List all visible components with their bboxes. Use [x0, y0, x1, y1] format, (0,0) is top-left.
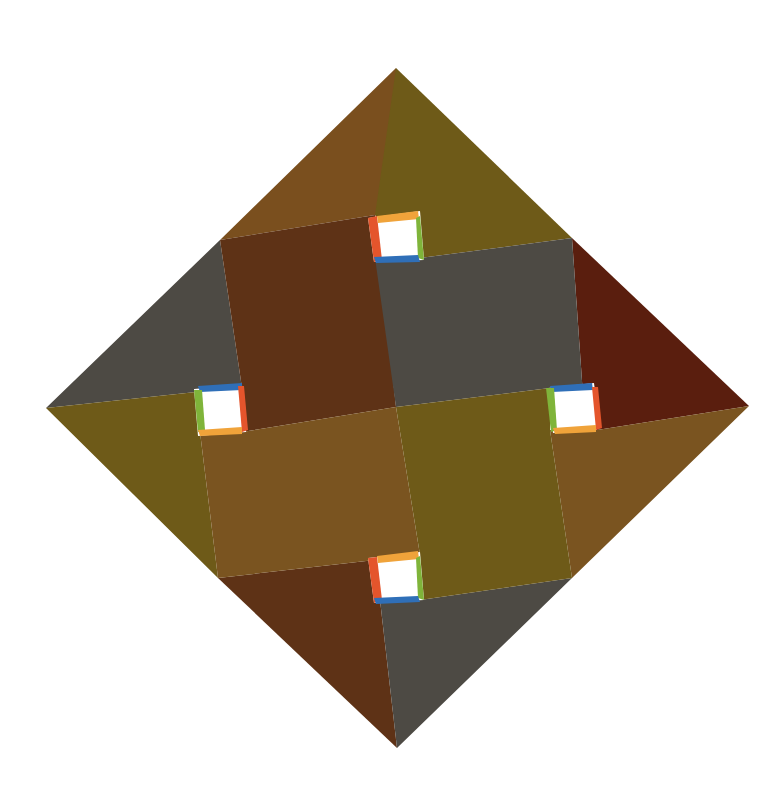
bottom-left-brown-triangle: [218, 560, 397, 748]
left-gap-square: [194, 383, 248, 436]
top-left-brown-band: [220, 215, 396, 432]
geometric-diamond-artwork: [0, 0, 771, 808]
top-right-gray-band: [375, 238, 583, 407]
left-gray-triangle: [46, 240, 242, 408]
bottom-right-olive-band: [396, 388, 572, 600]
top-gap-square: [368, 211, 424, 263]
left-olive-triangle: [46, 392, 218, 578]
bottom-right-gray-triangle: [380, 578, 572, 748]
right-gap-square: [546, 383, 602, 434]
bottom-gap-square: [368, 551, 424, 604]
